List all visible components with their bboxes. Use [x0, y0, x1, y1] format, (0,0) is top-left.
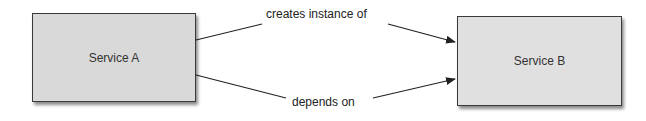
node-label: Service A — [89, 51, 140, 65]
edge-label-depends-on: depends on — [292, 95, 355, 109]
edge-label-creates-instance: creates instance of — [266, 7, 367, 21]
node-label: Service B — [514, 54, 565, 68]
node-service-b: Service B — [457, 16, 622, 106]
node-service-a: Service A — [32, 13, 196, 102]
edge-creates-instance — [196, 24, 455, 42]
